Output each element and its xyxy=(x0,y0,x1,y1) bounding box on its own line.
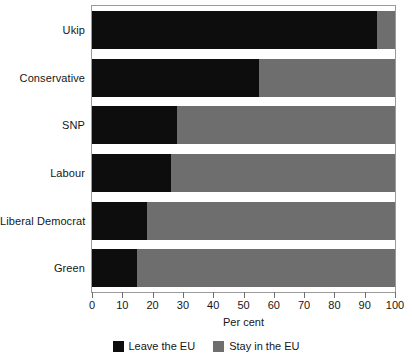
bar-segment-leave xyxy=(92,202,147,240)
x-tick-label: 10 xyxy=(107,299,137,312)
category-axis-labels: UkipConservativeSNPLabourLiberal Democra… xyxy=(0,5,85,290)
x-tick-label: 80 xyxy=(319,299,349,312)
bar-row xyxy=(92,202,395,240)
x-tick xyxy=(244,292,245,298)
x-tick xyxy=(274,292,275,298)
category-label: Ukip xyxy=(0,24,85,36)
x-tick-label: 20 xyxy=(138,299,168,312)
x-tick-label: 40 xyxy=(198,299,228,312)
category-label: SNP xyxy=(0,119,85,131)
x-tick xyxy=(153,292,154,298)
x-tick-label: 90 xyxy=(350,299,380,312)
x-tick xyxy=(395,292,396,298)
x-tick-label: 50 xyxy=(229,299,259,312)
bar-segment-stay xyxy=(137,249,395,287)
stacked-bar-chart: UkipConservativeSNPLabourLiberal Democra… xyxy=(0,0,412,362)
x-tick xyxy=(365,292,366,298)
legend-item: Leave the EU xyxy=(113,340,196,352)
x-tick-label: 100 xyxy=(380,299,410,312)
bars-layer xyxy=(92,6,395,292)
bar-row xyxy=(92,11,395,49)
x-tick-label: 30 xyxy=(168,299,198,312)
x-tick xyxy=(122,292,123,298)
category-label: Green xyxy=(0,262,85,274)
bar-segment-stay xyxy=(177,106,395,144)
x-axis-title: Per cent xyxy=(92,316,395,328)
bar-segment-stay xyxy=(377,11,395,49)
legend-item: Stay in the EU xyxy=(213,340,299,352)
x-tick-label: 0 xyxy=(77,299,107,312)
bar-segment-stay xyxy=(259,59,395,97)
bar-row xyxy=(92,249,395,287)
x-tick xyxy=(92,292,93,298)
x-tick xyxy=(304,292,305,298)
bar-segment-stay xyxy=(171,154,395,192)
chart-legend: Leave the EUStay in the EU xyxy=(0,340,412,352)
category-label: Liberal Democrat xyxy=(0,215,85,227)
bar-segment-leave xyxy=(92,106,177,144)
legend-swatch-icon xyxy=(213,341,224,352)
bar-row xyxy=(92,59,395,97)
bar-segment-leave xyxy=(92,249,137,287)
legend-label: Leave the EU xyxy=(129,340,196,352)
category-label: Conservative xyxy=(0,72,85,84)
x-tick xyxy=(334,292,335,298)
bar-segment-leave xyxy=(92,59,259,97)
bar-segment-leave xyxy=(92,154,171,192)
legend-swatch-icon xyxy=(113,341,124,352)
legend-label: Stay in the EU xyxy=(229,340,299,352)
x-tick-label: 60 xyxy=(259,299,289,312)
x-tick-label: 70 xyxy=(289,299,319,312)
bar-segment-leave xyxy=(92,11,377,49)
category-label: Labour xyxy=(0,167,85,179)
x-tick xyxy=(213,292,214,298)
bar-row xyxy=(92,106,395,144)
x-tick xyxy=(183,292,184,298)
bar-segment-stay xyxy=(147,202,395,240)
bar-row xyxy=(92,154,395,192)
